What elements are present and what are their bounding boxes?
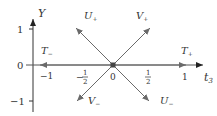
x-tick-0: 0 xyxy=(110,72,116,82)
t3-axis-label: t3 xyxy=(204,71,213,85)
svg-text:1: 1 xyxy=(146,69,150,77)
u-plus-vector: U+ xyxy=(76,10,113,65)
svg-text:U+: U+ xyxy=(84,10,97,22)
y-axis-label: Y xyxy=(38,7,47,20)
x-tick-minus-half: − 1 2 xyxy=(76,69,88,86)
y-tick-1: 1 xyxy=(17,24,23,35)
x-tick-minus-1: −1 xyxy=(40,71,53,81)
svg-text:U−: U− xyxy=(160,95,173,107)
svg-text:V+: V+ xyxy=(136,10,148,22)
y-tick-minus-1: −1 xyxy=(10,96,25,107)
x-tick-1: 1 xyxy=(182,72,188,82)
svg-text:V−: V− xyxy=(88,95,100,107)
t-minus-vector: T− xyxy=(40,45,113,65)
y-axis: Y 1 0 −1 xyxy=(10,7,47,112)
svg-text:2: 2 xyxy=(83,78,87,86)
x-tick-half: 1 2 xyxy=(145,69,151,86)
svg-text:T−: T− xyxy=(41,45,53,57)
origin-point xyxy=(111,63,116,68)
y-tick-0: 0 xyxy=(17,60,23,71)
v-plus-vector: V+ xyxy=(113,10,150,65)
svg-text:2: 2 xyxy=(146,78,150,86)
u-minus-vector: U− xyxy=(113,65,173,107)
t3-axis: t3 −1 − 1 2 0 1 2 1 xyxy=(26,65,213,86)
weight-diagram: Y 1 0 −1 t3 −1 − 1 2 0 1 2 1 xyxy=(0,0,217,116)
svg-text:1: 1 xyxy=(83,69,87,77)
t-plus-vector: T+ xyxy=(113,45,193,65)
svg-text:T+: T+ xyxy=(181,45,193,57)
